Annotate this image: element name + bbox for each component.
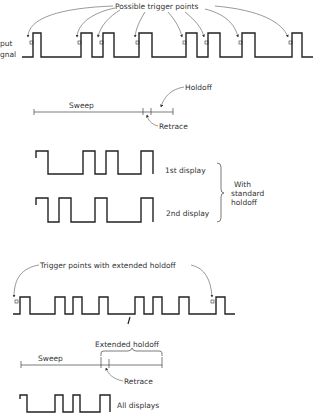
extended-holdoff-timing: Extended holdoff Sweep Retrace — [21, 340, 162, 386]
standard-holdoff-brace — [217, 163, 224, 222]
input-signal-label-line2: gnal — [0, 50, 16, 59]
trigger-marker — [211, 300, 214, 303]
first-display-label: 1st display — [165, 166, 206, 175]
second-display-waveform — [36, 198, 153, 222]
second-display-label: 2nd display — [166, 209, 210, 218]
trigger-points-extended-label: Trigger points with extended holdoff — [39, 261, 176, 270]
retrace-label: Retrace — [159, 122, 188, 131]
trigger-point-markers — [30, 41, 292, 44]
break-mark — [128, 317, 130, 324]
standard-holdoff-timing: Sweep Holdoff Retrace — [34, 83, 213, 131]
input-signal-label-line1: put — [0, 39, 13, 48]
holdoff-label: Holdoff — [185, 83, 213, 92]
retrace-label-2: Retrace — [124, 377, 153, 386]
standard-label: standard — [231, 189, 265, 198]
all-displays-waveform — [20, 395, 110, 412]
extended-signal-waveform — [13, 297, 235, 314]
all-displays-label: All displays — [117, 401, 159, 410]
first-display-waveform — [36, 151, 153, 174]
extended-holdoff-section: Trigger points with extended holdoff — [13, 261, 235, 324]
trigger-marker — [15, 300, 18, 303]
possible-trigger-points-label: Possible trigger points — [115, 2, 198, 11]
with-label: With — [234, 180, 251, 189]
possible-trigger-points-section: Possible trigger points put gnal — [0, 2, 313, 59]
extended-holdoff-label: Extended holdoff — [95, 340, 160, 349]
sweep-label: Sweep — [69, 101, 94, 110]
extended-holdoff-brace — [101, 348, 162, 356]
input-signal-waveform — [22, 33, 313, 57]
oscilloscope-holdoff-diagram: Possible trigger points put gnal — [0, 0, 318, 420]
holdoff-word-label: holdoff — [231, 198, 258, 207]
sweep-label-2: Sweep — [38, 354, 63, 363]
